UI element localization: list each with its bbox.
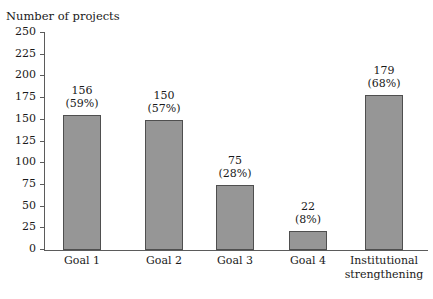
bar-value-percent: (59%) — [37, 97, 127, 111]
x-axis-category-label: Institutionalstrengthening — [336, 254, 432, 282]
bar-value-count: 150 — [119, 89, 209, 103]
y-axis-tick-mark — [40, 249, 44, 250]
bar-value-label: 179(68%) — [339, 64, 429, 91]
x-axis-line — [44, 250, 428, 251]
bar-value-percent: (28%) — [190, 167, 280, 181]
y-axis-tick-label: 25 — [22, 220, 36, 234]
x-axis-category-label-line: strengthening — [336, 268, 432, 282]
y-axis-tick-mark — [40, 227, 44, 228]
bar-value-percent: (68%) — [339, 77, 429, 91]
bar-value-count: 156 — [37, 84, 127, 98]
bar-value-label: 150(57%) — [119, 89, 209, 116]
y-axis-tick-mark — [40, 162, 44, 163]
y-axis-tick-label: 175 — [15, 90, 36, 104]
y-axis-line — [44, 32, 45, 251]
bar-value-label: 75(28%) — [190, 154, 280, 181]
bar-value-count: 75 — [190, 154, 280, 168]
bar — [216, 185, 254, 250]
bar-value-percent: (57%) — [119, 102, 209, 116]
y-axis-tick-label: 50 — [22, 199, 36, 213]
bar-value-label: 156(59%) — [37, 84, 127, 111]
y-axis-tick-label: 225 — [15, 47, 36, 61]
y-axis-tick-label: 125 — [15, 134, 36, 148]
y-axis-tick-label: 250 — [15, 25, 36, 39]
bar — [63, 115, 101, 250]
x-axis-category-label-line: Institutional — [336, 254, 432, 268]
y-axis-title: Number of projects — [6, 9, 120, 23]
y-axis-tick-label: 75 — [22, 177, 36, 191]
y-axis-tick-mark — [40, 206, 44, 207]
bar — [289, 231, 327, 250]
bar — [365, 95, 403, 250]
y-axis-tick-mark — [40, 119, 44, 120]
y-axis-tick-mark — [40, 141, 44, 142]
bar-value-count: 179 — [339, 64, 429, 78]
y-axis-tick-label: 150 — [15, 112, 36, 126]
y-axis-tick-label: 100 — [15, 155, 36, 169]
bar-value-label: 22(8%) — [263, 200, 353, 227]
y-axis-tick-label: 200 — [15, 68, 36, 82]
bar-value-count: 22 — [263, 200, 353, 214]
bar-value-percent: (8%) — [263, 213, 353, 227]
bar — [145, 120, 183, 250]
y-axis-tick-mark — [40, 184, 44, 185]
y-axis-tick-mark — [40, 54, 44, 55]
y-axis-tick-mark — [40, 32, 44, 33]
y-axis-tick-mark — [40, 75, 44, 76]
bar-chart: Number of projects 025507510012515017520… — [0, 0, 433, 299]
